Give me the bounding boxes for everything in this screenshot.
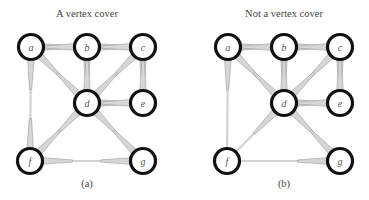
vertex-label: c bbox=[141, 42, 146, 53]
vertex-label: e bbox=[338, 98, 343, 109]
vertex-e: e bbox=[131, 91, 156, 116]
vertex-a: a bbox=[19, 35, 44, 60]
panel-caption: (a) bbox=[81, 178, 93, 190]
vertex-label: e bbox=[141, 98, 146, 109]
panel-caption: (b) bbox=[278, 178, 291, 190]
vertex-label: c bbox=[338, 42, 343, 53]
vertex-label: g bbox=[141, 156, 146, 167]
vertex-g: g bbox=[131, 149, 156, 174]
panel-title: Not a vertex cover bbox=[245, 8, 323, 19]
vertex-f: f bbox=[18, 149, 43, 174]
panel-title: A vertex cover bbox=[56, 8, 118, 19]
vertex-label: g bbox=[338, 156, 343, 167]
vertices: abcdefg bbox=[215, 35, 353, 174]
panel-a: A vertex cover abcdefg (a) bbox=[18, 8, 156, 190]
vertex-c: c bbox=[131, 35, 156, 60]
vertex-f: f bbox=[215, 149, 240, 174]
vertex-d: d bbox=[272, 91, 297, 116]
vertex-label: a bbox=[226, 42, 231, 53]
vertex-a: a bbox=[216, 35, 241, 60]
panel-b: Not a vertex cover abcdefg (b) bbox=[215, 8, 353, 190]
vertex-label: a bbox=[29, 42, 34, 53]
vertex-e: e bbox=[328, 91, 353, 116]
vertex-g: g bbox=[328, 149, 353, 174]
vertex-d: d bbox=[75, 91, 100, 116]
vertices: abcdefg bbox=[18, 35, 156, 174]
vertex-cover-figure: A vertex cover abcdefg (a) Not a vertex … bbox=[0, 0, 369, 200]
vertex-b: b bbox=[272, 35, 297, 60]
vertex-c: c bbox=[328, 35, 353, 60]
vertex-b: b bbox=[75, 35, 100, 60]
vertex-label: b bbox=[85, 42, 90, 53]
vertex-label: b bbox=[282, 42, 287, 53]
